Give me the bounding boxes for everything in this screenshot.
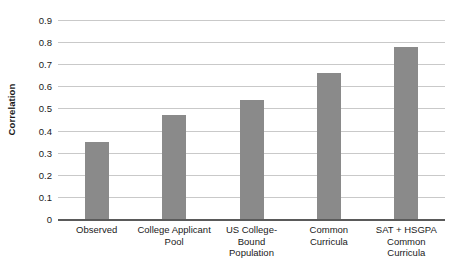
gridline [58, 42, 445, 43]
bar [317, 73, 341, 219]
y-tick-label: 0.3 [39, 147, 52, 158]
y-tick-label: 0.1 [39, 191, 52, 202]
y-tick-label: 0.6 [39, 81, 52, 92]
x-axis-line [58, 219, 445, 221]
gridline [58, 64, 445, 65]
x-tick-label-line: Curricula [290, 236, 367, 248]
x-tick-label: US College-BoundPopulation [213, 224, 290, 259]
x-tick-label-line: Bound [213, 236, 290, 248]
bar-chart: Correlation 00.10.20.30.40.50.60.70.80.9… [0, 0, 461, 280]
gridline [58, 86, 445, 87]
y-tick-label: 0.2 [39, 169, 52, 180]
x-tick-label: SAT + HSGPACommonCurricula [368, 224, 445, 259]
plot-area [58, 20, 445, 219]
x-tick-label-line: Observed [58, 224, 135, 236]
y-tick-label: 0.7 [39, 59, 52, 70]
x-tick-label-line: US College- [213, 224, 290, 236]
gridline [58, 20, 445, 21]
x-tick-label-line: Curricula [368, 247, 445, 259]
y-tick-label: 0.9 [39, 15, 52, 26]
y-axis-tick-labels: 00.10.20.30.40.50.60.70.80.9 [24, 0, 56, 224]
x-tick-label-line: Population [213, 247, 290, 259]
bar [240, 100, 264, 219]
x-tick-label-line: Common [368, 236, 445, 248]
x-tick-label-line: Common [290, 224, 367, 236]
x-tick-label: CommonCurricula [290, 224, 367, 247]
y-tick-label: 0 [47, 214, 52, 225]
y-axis-title-text: Correlation [7, 84, 18, 136]
x-tick-label: Observed [58, 224, 135, 236]
bar [85, 142, 109, 219]
y-tick-label: 0.4 [39, 125, 52, 136]
y-axis-title: Correlation [0, 0, 24, 219]
y-tick-label: 0.8 [39, 37, 52, 48]
x-tick-label-line: College Applicant [135, 224, 212, 236]
x-tick-label-line: SAT + HSGPA [368, 224, 445, 236]
bar [394, 47, 418, 219]
x-tick-label-line: Pool [135, 236, 212, 248]
x-tick-label: College ApplicantPool [135, 224, 212, 247]
y-tick-label: 0.5 [39, 103, 52, 114]
bar [162, 115, 186, 219]
x-axis-category-labels: ObservedCollege ApplicantPoolUS College-… [58, 224, 445, 280]
